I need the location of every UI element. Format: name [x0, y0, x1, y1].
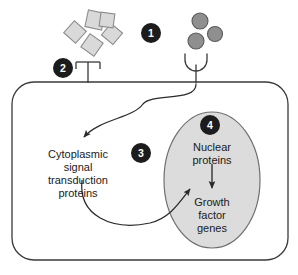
- cytoplasmic-label-line-2: signal: [64, 161, 93, 173]
- badge-3: 3: [131, 143, 151, 163]
- growth-factor-genes-line-2: factor: [198, 209, 226, 221]
- receptor-cup-right: [185, 54, 207, 83]
- nuclear-proteins-line-1: Nuclear: [193, 141, 231, 153]
- ligand-circle: [188, 33, 204, 49]
- receptor-flat-left: [76, 62, 100, 83]
- cytoplasmic-label-line-1: Cytoplasmic: [48, 148, 108, 160]
- ligand-circle: [192, 13, 208, 29]
- badge-3-label: 3: [138, 147, 144, 159]
- badge-4: 4: [200, 115, 220, 135]
- growth-factor-genes-line-1: Growth: [194, 196, 229, 208]
- cytoplasmic-signal-transduction-proteins-label: Cytoplasmic signal transduction proteins: [48, 148, 108, 199]
- nuclear-proteins-label: Nuclear proteins: [192, 141, 232, 166]
- cytoplasmic-label-line-3: transduction: [48, 174, 108, 186]
- arrow-receptor-to-cytoplasm: [84, 84, 196, 137]
- badge-4-label: 4: [207, 119, 213, 131]
- badge-2-label: 2: [60, 62, 66, 74]
- badge-1-label: 1: [148, 27, 154, 39]
- ligand-circle: [208, 27, 223, 42]
- ligand-square: [64, 21, 87, 44]
- growth-factor-genes-label: Growth factor genes: [194, 196, 229, 234]
- growth-factor-ligand-squares: [64, 10, 123, 56]
- nuclear-proteins-line-2: proteins: [192, 154, 232, 166]
- ligand-square: [99, 12, 115, 28]
- badge-1: 1: [141, 23, 161, 43]
- diagram-canvas: Cytoplasmic signal transduction proteins…: [0, 0, 298, 275]
- growth-factor-ligand-circles: [188, 13, 223, 49]
- signal-transduction-diagram: Cytoplasmic signal transduction proteins…: [0, 0, 298, 275]
- cytoplasmic-label-line-4: proteins: [58, 187, 98, 199]
- badge-2: 2: [53, 58, 73, 78]
- ligand-square: [81, 34, 103, 56]
- growth-factor-genes-line-3: genes: [197, 222, 227, 234]
